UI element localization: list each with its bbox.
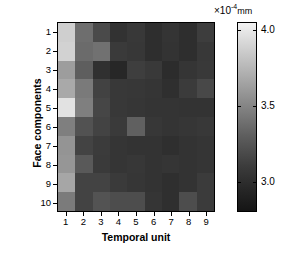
colorbar	[237, 22, 257, 212]
heatmap-cell	[127, 136, 144, 155]
heatmap-cell	[162, 173, 179, 192]
heatmap-cell	[127, 117, 144, 136]
colorbar-unit-prefix: ×10	[214, 5, 231, 16]
heatmap-cell	[162, 155, 179, 174]
heatmap-cell	[75, 23, 92, 42]
x-axis-title: Temporal unit	[57, 231, 215, 243]
heatmap-cell	[197, 192, 214, 211]
heatmap-cell	[197, 61, 214, 80]
heatmap-cell	[179, 42, 196, 61]
heatmap-cell	[110, 42, 127, 61]
heatmap-cell	[75, 79, 92, 98]
heatmap-cell	[197, 98, 214, 117]
heatmap-cell	[179, 117, 196, 136]
colorbar-tick-mark	[253, 30, 256, 31]
heatmap-cell	[179, 136, 196, 155]
heatmap-cell	[145, 117, 162, 136]
heatmap-cell	[58, 23, 75, 42]
colorbar-unit-exponent: -4	[231, 3, 237, 10]
heatmap-cell	[58, 98, 75, 117]
heatmap-cell	[58, 173, 75, 192]
y-tick-mark	[53, 32, 57, 33]
y-tick-mark	[53, 203, 57, 204]
heatmap-plot-area	[57, 22, 215, 212]
heatmap-cell	[127, 42, 144, 61]
colorbar-tick-mark	[238, 182, 241, 183]
heatmap-cell	[58, 61, 75, 80]
heatmap-cell	[110, 155, 127, 174]
heatmap-cell	[75, 98, 92, 117]
y-tick-mark	[53, 165, 57, 166]
heatmap-cell	[162, 42, 179, 61]
colorbar-unit-label: ×10-4mm	[214, 4, 252, 16]
heatmap-cell	[110, 79, 127, 98]
heatmap-cell	[179, 155, 196, 174]
heatmap-cell	[127, 23, 144, 42]
heatmap-cell	[179, 98, 196, 117]
y-tick-mark	[53, 146, 57, 147]
heatmap-cell	[58, 42, 75, 61]
heatmap-cell	[127, 61, 144, 80]
heatmap-cell	[197, 23, 214, 42]
heatmap-cell	[75, 61, 92, 80]
y-tick-mark	[53, 70, 57, 71]
heatmap-cell	[145, 155, 162, 174]
heatmap-cell	[75, 192, 92, 211]
heatmap-cell	[179, 23, 196, 42]
heatmap-cell	[145, 136, 162, 155]
heatmap-cell	[127, 98, 144, 117]
x-tick-label: 9	[196, 216, 216, 227]
heatmap-cell	[162, 61, 179, 80]
heatmap-cell	[179, 173, 196, 192]
heatmap-cell	[110, 23, 127, 42]
heatmap-cell	[127, 155, 144, 174]
heatmap-cell	[197, 173, 214, 192]
heatmap-cell	[75, 117, 92, 136]
heatmap-cell	[75, 136, 92, 155]
heatmap-cell	[145, 192, 162, 211]
heatmap-cell	[93, 98, 110, 117]
heatmap-cell	[197, 155, 214, 174]
heatmap-cell	[93, 61, 110, 80]
heatmap-cell	[93, 42, 110, 61]
heatmap-cell	[93, 117, 110, 136]
colorbar-unit-suffix: mm	[237, 6, 252, 16]
heatmap-cell	[179, 192, 196, 211]
heatmap-cell	[110, 117, 127, 136]
heatmap-cell	[75, 42, 92, 61]
heatmap-cell	[93, 23, 110, 42]
heatmap-cell	[110, 61, 127, 80]
heatmap-cell	[179, 79, 196, 98]
y-axis-title: Face components	[31, 28, 43, 218]
heatmap-cell	[58, 117, 75, 136]
y-tick-mark	[53, 184, 57, 185]
heatmap-cell	[162, 98, 179, 117]
heatmap-cell	[58, 79, 75, 98]
y-tick-mark	[53, 127, 57, 128]
heatmap-cell	[110, 98, 127, 117]
heatmap-cell	[197, 136, 214, 155]
heatmap-cell	[162, 79, 179, 98]
heatmap-cell	[162, 136, 179, 155]
heatmap-cell	[162, 192, 179, 211]
heatmap-cell	[93, 173, 110, 192]
heatmap-cell	[110, 173, 127, 192]
y-tick-mark	[53, 51, 57, 52]
y-tick-mark	[53, 108, 57, 109]
colorbar-tick-mark	[253, 182, 256, 183]
heatmap-cell	[58, 136, 75, 155]
heatmap-cell	[162, 117, 179, 136]
colorbar-tick-label: 3.5	[261, 101, 275, 111]
colorbar-tick-mark	[238, 106, 241, 107]
heatmap-cell	[145, 61, 162, 80]
heatmap-cell	[58, 192, 75, 211]
heatmap-cell	[110, 192, 127, 211]
heatmap-cell	[197, 42, 214, 61]
heatmap-cell-grid	[58, 23, 214, 211]
heatmap-cell	[127, 79, 144, 98]
heatmap-cell	[110, 136, 127, 155]
heatmap-cell	[75, 173, 92, 192]
figure-canvas: ×10-4mm 12345678910 Face components 1234…	[0, 0, 284, 253]
y-tick-mark	[53, 89, 57, 90]
heatmap-cell	[93, 155, 110, 174]
